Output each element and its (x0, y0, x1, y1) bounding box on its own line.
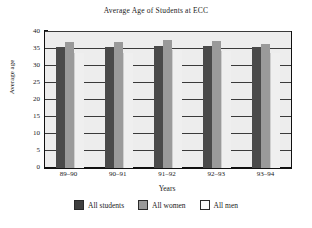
x-axis-tick-label: 89–90 (44, 170, 93, 182)
y-axis-tick-label: 25 (6, 79, 40, 86)
legend-swatch-icon (138, 200, 148, 210)
bar-groups (45, 32, 291, 168)
bar-group (94, 32, 143, 168)
bar-students (252, 47, 261, 168)
x-axis-tick-labels: 89–9090–9191–9292–9393–94 (44, 170, 290, 182)
y-axis-tick-label: 35 (6, 45, 40, 52)
y-axis-tick-label: 10 (6, 130, 40, 137)
bar-women (261, 44, 270, 168)
bar-students (105, 47, 114, 168)
legend-item[interactable]: All women (138, 200, 186, 210)
bar-group (143, 32, 192, 168)
bar-group (193, 32, 242, 168)
y-axis-tick-label: 20 (6, 96, 40, 103)
y-axis-tick-label: 30 (6, 62, 40, 69)
bar-men (221, 51, 231, 168)
bar-group (242, 32, 291, 168)
bar-students (203, 46, 212, 168)
bar-women (114, 42, 123, 168)
legend-item[interactable]: All students (74, 200, 124, 210)
y-axis-tick-label: 40 (6, 28, 40, 35)
x-axis-tick-label: 90–91 (93, 170, 142, 182)
legend-label: All men (214, 201, 238, 210)
legend-swatch-icon (200, 200, 210, 210)
bar-men (123, 53, 133, 168)
legend-swatch-icon (74, 200, 84, 210)
bar-students (56, 47, 65, 168)
bar-women (212, 41, 221, 169)
x-axis-tick-label: 91–92 (142, 170, 191, 182)
bar-men (172, 50, 182, 168)
chart-legend: All studentsAll womenAll men (0, 200, 312, 210)
bar-group (45, 32, 94, 168)
plot-area (44, 31, 292, 169)
chart-title: Average Age of Students at ECC (0, 6, 312, 15)
bar-men (270, 53, 280, 168)
bar-women (163, 40, 172, 168)
bar-students (154, 46, 163, 168)
legend-item[interactable]: All men (200, 200, 238, 210)
bar-women (65, 42, 74, 168)
x-axis-tick-label: 92–93 (192, 170, 241, 182)
y-axis-tick-label: 5 (6, 147, 40, 154)
y-axis-tick-label: 0 (6, 164, 40, 171)
bar-chart: Average Age of Students at ECC Average a… (0, 0, 312, 228)
x-axis-title: Years (44, 184, 290, 193)
y-axis-tick-label: 15 (6, 113, 40, 120)
y-axis-ticks: 0510152025303540 (4, 31, 40, 167)
x-axis-tick-label: 93–94 (241, 170, 290, 182)
bar-men (74, 53, 84, 168)
legend-label: All students (88, 201, 124, 210)
legend-label: All women (152, 201, 186, 210)
